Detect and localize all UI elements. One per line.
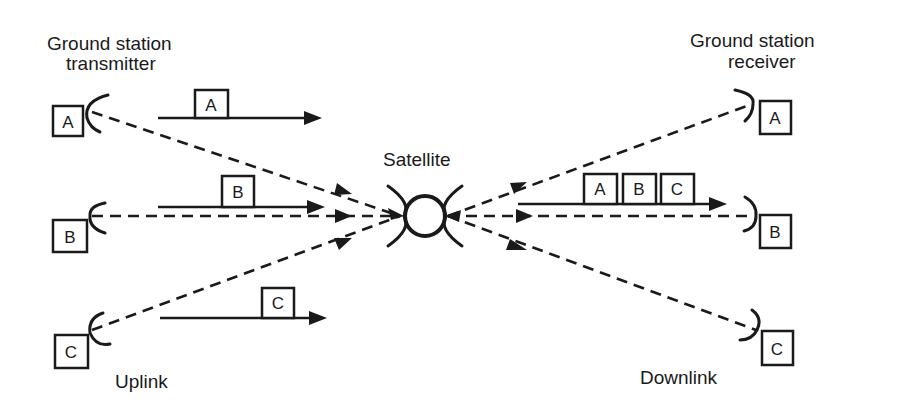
receiver-c: C: [740, 310, 793, 365]
downlink-packet-train: A B C: [518, 174, 727, 211]
downlink-beam-c: [448, 216, 756, 330]
transmitter-title-line1: Ground station: [47, 33, 172, 54]
uplink-arrowhead-b: [335, 209, 352, 223]
arrowhead-icon: [709, 197, 727, 211]
uplink-packet-a: A: [158, 90, 322, 125]
transmitter-id-c: C: [65, 343, 77, 362]
receiver-a: A: [735, 90, 791, 134]
transmitter-c: C: [55, 313, 110, 368]
dish-antenna-icon: [90, 203, 105, 233]
transmitter-id-a: A: [62, 113, 74, 132]
arrowhead-icon: [304, 111, 322, 125]
arrowhead-icon: [309, 311, 327, 325]
receiver-id-c: C: [771, 340, 783, 359]
downlink-packet-label-a: A: [594, 180, 606, 199]
uplink-arrowhead-a: [334, 183, 352, 195]
uplink-arrowhead-c: [334, 238, 352, 250]
uplink-label: Uplink: [115, 371, 168, 392]
downlink-label: Downlink: [640, 367, 718, 388]
uplink-packet-c: C: [160, 288, 327, 325]
downlink-packet-label-c: C: [671, 180, 683, 199]
packet-label-b: B: [232, 183, 243, 202]
satellite-label: Satellite: [383, 149, 451, 170]
receiver-b: B: [744, 197, 791, 248]
downlink-packet-label-b: B: [633, 180, 644, 199]
receiver-id-b: B: [769, 223, 780, 242]
packet-label-a: A: [205, 96, 217, 115]
receiver-id-a: A: [769, 109, 781, 128]
receiver-title-line1: Ground station: [690, 30, 815, 51]
satellite-multiplex-diagram: Ground station transmitter Ground statio…: [0, 0, 898, 409]
arrowhead-icon: [307, 200, 325, 214]
satellite-arrowhead-in-left: [388, 208, 404, 220]
receiver-title-line2: receiver: [728, 51, 796, 72]
transmitter-title-line2: transmitter: [66, 53, 156, 74]
dish-antenna-icon: [735, 90, 753, 121]
packet-label-c: C: [272, 294, 284, 313]
uplink-beam-c: [92, 216, 400, 330]
dish-antenna-icon: [744, 197, 756, 231]
downlink-arrowhead-b: [516, 209, 533, 223]
transmitter-b: B: [53, 203, 105, 252]
transmitter-id-b: B: [64, 228, 75, 247]
